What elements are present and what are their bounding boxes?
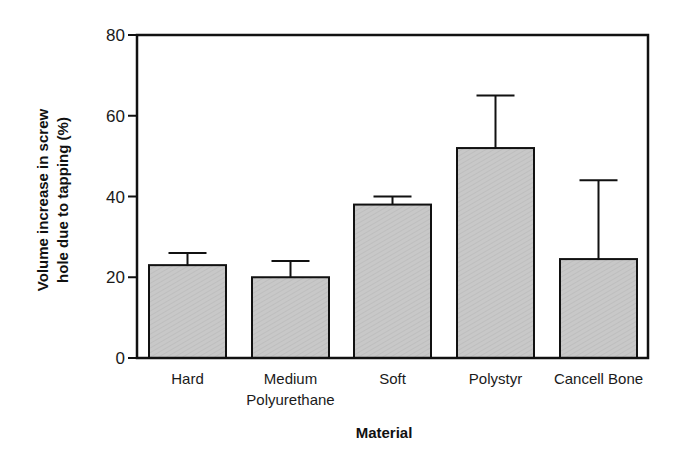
y-tick-label: 40 [106, 188, 125, 207]
y-tick-label: 0 [116, 349, 125, 368]
y-tick-label: 20 [106, 268, 125, 287]
x-category-label: Hard [171, 370, 204, 387]
x-axis-title: Material [356, 424, 413, 441]
y-axis-title: Volume increase in screwhole due to tapp… [34, 109, 71, 292]
bar-chart: 020406080 HardMediumPolyurethaneSoftPoly… [0, 0, 678, 454]
y-axis-title-line: hole due to tapping (%) [54, 117, 71, 283]
x-category-label: Cancell Bone [554, 370, 643, 387]
x-category-label: Soft [379, 370, 407, 387]
x-category-label: Polyurethane [246, 391, 334, 408]
bars-group [149, 148, 637, 358]
x-category-label: Polystyr [469, 370, 522, 387]
bar [560, 259, 637, 358]
y-axis-title-line: Volume increase in screw [34, 109, 51, 292]
x-axis-category-labels: HardMediumPolyurethaneSoftPolystyrCancel… [171, 370, 643, 408]
y-tick-label: 60 [106, 107, 125, 126]
bar [457, 148, 534, 358]
bar [252, 277, 329, 358]
y-axis-ticks: 020406080 [106, 26, 137, 368]
x-category-label: Medium [264, 370, 317, 387]
bar [354, 205, 431, 358]
y-tick-label: 80 [106, 26, 125, 45]
bar [149, 265, 226, 358]
